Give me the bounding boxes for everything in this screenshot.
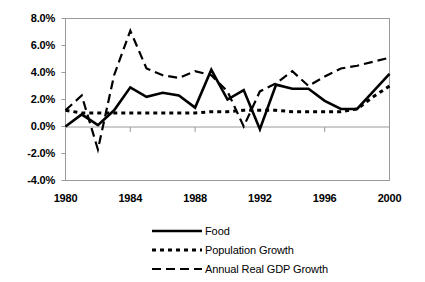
x-axis-tick-label: 1996 (302, 192, 348, 204)
y-axis-tick-label: -2.0% (9, 147, 55, 159)
chart-plot-area (0, 0, 425, 282)
chart-container: 8.0%6.0%4.0%2.0%0.0%-2.0%-4.0% 198019841… (0, 0, 425, 282)
axes-group (62, 19, 390, 181)
y-axis-tick-label: 4.0% (9, 66, 55, 78)
legend-item[interactable]: Annual Real GDP Growth (150, 260, 328, 277)
x-axis-tick-label: 1984 (107, 192, 153, 204)
y-axis-tick-label: 2.0% (9, 93, 55, 105)
x-axis-tick-label: 2000 (367, 192, 413, 204)
data-series-group (66, 31, 390, 150)
legend-item[interactable]: Population Growth (150, 241, 294, 258)
y-axis-tick-label: -4.0% (9, 174, 55, 186)
legend-label: Annual Real GDP Growth (204, 263, 328, 275)
legend-swatch-dashed (150, 262, 204, 276)
x-axis-ticks (66, 127, 390, 132)
series-line-food (66, 70, 390, 129)
series-line-annual-real-gdp-growth (66, 31, 390, 150)
x-axis-tick-label: 1988 (172, 192, 218, 204)
x-axis-tick-label: 1992 (237, 192, 283, 204)
legend-swatch-dotted (150, 243, 204, 257)
legend-label: Food (204, 225, 230, 237)
y-axis-tick-label: 6.0% (9, 39, 55, 51)
y-axis-tick-label: 0.0% (9, 120, 55, 132)
x-axis-tick-label: 1980 (43, 192, 89, 204)
legend-label: Population Growth (204, 244, 294, 256)
legend-item[interactable]: Food (150, 222, 230, 239)
y-axis-tick-label: 8.0% (9, 12, 55, 24)
y-axis-ticks (62, 19, 66, 181)
legend-swatch-solid (150, 224, 204, 238)
